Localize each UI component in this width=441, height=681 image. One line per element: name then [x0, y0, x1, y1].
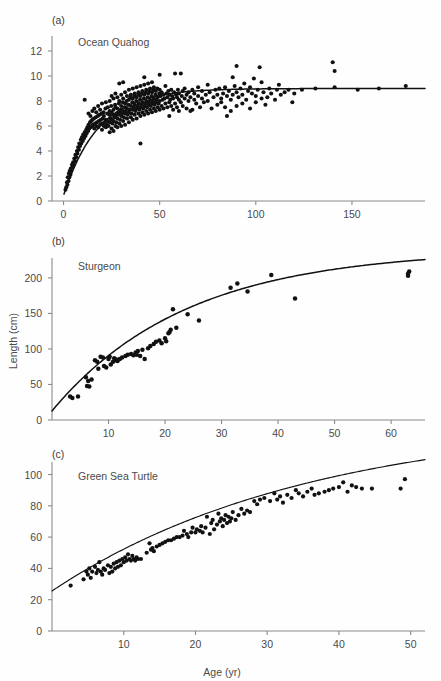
- data-point: [258, 497, 262, 501]
- data-point: [139, 557, 143, 561]
- y-tick-label: 12: [30, 45, 42, 57]
- data-point: [261, 90, 265, 94]
- data-point: [171, 307, 176, 312]
- data-point: [205, 515, 209, 519]
- data-point: [202, 100, 206, 104]
- data-point: [312, 493, 316, 497]
- y-tick-label: 50: [30, 378, 42, 390]
- data-point: [216, 512, 220, 516]
- data-point: [244, 98, 248, 102]
- data-point: [201, 530, 205, 534]
- data-point: [131, 86, 135, 90]
- data-point: [171, 108, 175, 112]
- y-tick-label: 40: [30, 562, 42, 574]
- data-point: [235, 281, 240, 286]
- x-tick-label: 50: [154, 208, 166, 220]
- data-point: [69, 584, 73, 588]
- data-point: [301, 494, 305, 498]
- data-point: [245, 289, 250, 294]
- data-point: [310, 487, 314, 491]
- data-point: [100, 101, 104, 105]
- data-point: [240, 101, 244, 105]
- data-point: [198, 105, 202, 109]
- data-point: [337, 485, 341, 489]
- data-point: [147, 541, 151, 545]
- data-point: [252, 76, 256, 80]
- data-point: [94, 110, 98, 114]
- x-tick-label: 0: [61, 208, 67, 220]
- data-point: [113, 91, 117, 95]
- y-tick-label: 200: [24, 272, 42, 284]
- data-point: [240, 93, 244, 97]
- data-point: [331, 60, 335, 64]
- data-point: [161, 106, 165, 110]
- data-point: [190, 108, 194, 112]
- x-tick-label: 30: [261, 638, 273, 650]
- data-point: [142, 113, 146, 117]
- data-point: [138, 354, 143, 359]
- data-point: [104, 100, 108, 104]
- data-point: [233, 84, 237, 88]
- data-point: [250, 91, 254, 95]
- data-point: [110, 569, 114, 573]
- data-point: [317, 491, 321, 495]
- data-point: [108, 130, 112, 134]
- x-tick-label: 40: [333, 638, 345, 650]
- data-point: [199, 524, 203, 528]
- panel-b-plot: (b) Sturgeon Length (cm) 050100150200102…: [0, 228, 441, 440]
- data-point: [231, 510, 235, 514]
- data-point: [175, 105, 179, 109]
- data-point: [235, 104, 239, 108]
- data-point: [235, 90, 239, 94]
- data-point: [203, 526, 207, 530]
- data-point: [152, 549, 156, 553]
- data-point: [119, 124, 123, 128]
- y-tick-label: 8: [36, 95, 42, 107]
- panel-a-points: [63, 60, 407, 192]
- data-point: [212, 527, 216, 531]
- data-point: [255, 502, 259, 506]
- data-point: [70, 396, 75, 401]
- data-point: [350, 483, 354, 487]
- x-tick-label: 60: [385, 427, 397, 439]
- data-point: [248, 106, 252, 110]
- data-point: [164, 339, 169, 344]
- data-point: [229, 98, 233, 102]
- data-point: [192, 91, 196, 95]
- data-point: [221, 91, 225, 95]
- data-point: [206, 83, 210, 87]
- data-point: [231, 75, 235, 79]
- data-point: [229, 516, 233, 520]
- data-point: [196, 85, 200, 89]
- data-point: [183, 86, 187, 90]
- data-point: [268, 499, 272, 503]
- data-point: [185, 106, 189, 110]
- data-point: [186, 535, 190, 539]
- data-point: [186, 99, 190, 103]
- panel-a-plot: (a) Ocean Quahog 024681012050100150: [0, 0, 441, 228]
- x-tick-label: 10: [118, 638, 130, 650]
- x-tick-label: 10: [103, 427, 115, 439]
- data-point: [252, 499, 256, 503]
- data-point: [189, 530, 193, 534]
- data-point: [407, 269, 412, 274]
- data-point: [269, 273, 274, 278]
- y-tick-label: 0: [36, 625, 42, 637]
- data-point: [399, 487, 403, 491]
- data-point: [119, 563, 123, 567]
- data-point: [168, 328, 173, 333]
- data-point: [136, 349, 141, 354]
- panel-b-title: Sturgeon: [78, 260, 121, 272]
- data-point: [121, 80, 125, 84]
- data-point: [89, 576, 93, 580]
- panel-b-axes: 050100150200102030405060: [24, 258, 425, 439]
- data-point: [158, 108, 162, 112]
- data-point: [278, 494, 282, 498]
- data-point: [163, 84, 167, 88]
- data-point: [219, 100, 223, 104]
- y-tick-label: 6: [36, 120, 42, 132]
- y-tick-label: 150: [24, 307, 42, 319]
- data-point: [174, 325, 179, 330]
- data-point: [231, 93, 235, 97]
- data-point: [283, 90, 287, 94]
